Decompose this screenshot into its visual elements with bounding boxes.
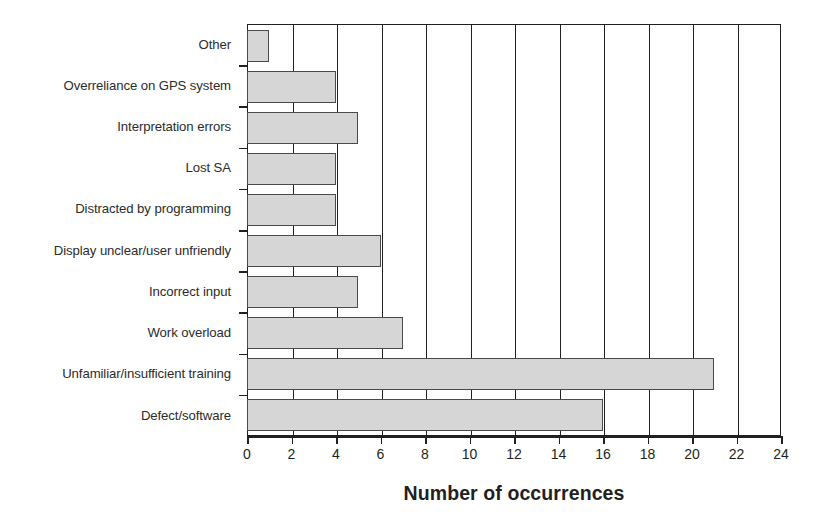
x-axis-tick-label: 16 (595, 446, 611, 462)
x-axis-tick (603, 436, 605, 444)
x-axis-tick (247, 436, 249, 444)
category-label-row: Lost SA (0, 148, 240, 189)
category-label: Overreliance on GPS system (64, 79, 231, 93)
bar-row (248, 312, 780, 353)
bar (247, 276, 358, 308)
category-label: Defect/software (141, 409, 231, 423)
bar (247, 358, 714, 390)
x-axis-tick-label: 8 (421, 446, 429, 462)
bar (247, 30, 269, 62)
x-axis-tick-label: 12 (506, 446, 522, 462)
x-axis-tick (381, 436, 383, 444)
x-axis-tick (292, 436, 294, 444)
category-label-row: Distracted by programming (0, 189, 240, 230)
category-label-row: Display unclear/user unfriendly (0, 230, 240, 271)
x-axis-tick-label: 6 (377, 446, 385, 462)
category-label-row: Work overload (0, 312, 240, 353)
x-axis-tick-label: 2 (288, 446, 296, 462)
category-label: Lost SA (186, 161, 231, 175)
x-axis-tick-label: 24 (773, 446, 789, 462)
x-axis-tick (737, 436, 739, 444)
category-label: Distracted by programming (75, 202, 231, 216)
bar-row (248, 107, 780, 148)
category-label-row: Other (0, 24, 240, 65)
bar-row (248, 148, 780, 189)
category-label-row: Unfamiliar/insufficient training (0, 354, 240, 395)
y-axis-category-labels: OtherOverreliance on GPS systemInterpret… (0, 24, 240, 436)
bar (247, 317, 403, 349)
x-axis-tick (336, 436, 338, 444)
bar (247, 399, 603, 431)
x-axis-tick-label: 20 (684, 446, 700, 462)
category-label-row: Defect/software (0, 395, 240, 436)
x-axis-tick (692, 436, 694, 444)
horizontal-bar-chart: OtherOverreliance on GPS systemInterpret… (0, 0, 821, 530)
x-axis-tick (648, 436, 650, 444)
x-axis-tick-label: 10 (462, 446, 478, 462)
bar-row (248, 189, 780, 230)
bars-layer (248, 25, 780, 435)
bar (247, 71, 336, 103)
x-axis-title: Number of occurrences (247, 482, 781, 505)
x-axis-tick (514, 436, 516, 444)
bar-row (248, 394, 780, 435)
x-axis-tick-label: 0 (243, 446, 251, 462)
bar (247, 112, 358, 144)
x-axis-tick-marks (247, 436, 781, 444)
bar-row (248, 271, 780, 312)
bar-row (248, 230, 780, 271)
bar-row (248, 25, 780, 66)
x-axis-tick (470, 436, 472, 444)
category-label: Interpretation errors (117, 120, 231, 134)
x-axis-tick (559, 436, 561, 444)
category-label-row: Incorrect input (0, 271, 240, 312)
category-label: Incorrect input (149, 285, 231, 299)
bar-row (248, 66, 780, 107)
x-axis-tick-label: 4 (332, 446, 340, 462)
category-label: Unfamiliar/insufficient training (62, 367, 231, 381)
category-label: Display unclear/user unfriendly (54, 244, 231, 258)
category-label-row: Overreliance on GPS system (0, 65, 240, 106)
plot-area (247, 24, 781, 436)
x-axis-tick-label: 14 (551, 446, 567, 462)
bar-row (248, 353, 780, 394)
bar (247, 194, 336, 226)
category-label: Work overload (148, 326, 231, 340)
category-label: Other (199, 38, 231, 52)
x-axis-tick-labels: 024681012141618202224 (247, 446, 781, 466)
x-axis-tick (781, 436, 783, 444)
category-label-row: Interpretation errors (0, 106, 240, 147)
bar (247, 235, 381, 267)
x-axis-tick (425, 436, 427, 444)
bar (247, 153, 336, 185)
x-axis-tick-label: 22 (729, 446, 745, 462)
x-axis-tick-label: 18 (640, 446, 656, 462)
